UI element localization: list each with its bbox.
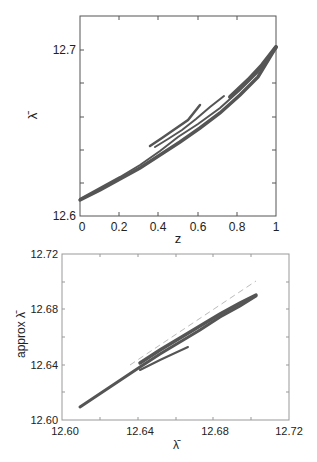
bottom-chart: 12.72 12.68 12.64 12.60 12.60 12.64 12.6… [14, 248, 303, 452]
bottom-x-tick-label: 12.60 [51, 425, 79, 437]
bottom-x-axis-label: λ̄ [173, 438, 181, 452]
bottom-data-curves [80, 295, 256, 407]
bottom-x-tick-label: 12.72 [275, 425, 303, 437]
identity-reference-line [130, 281, 256, 365]
top-x-tick-label: 1 [273, 220, 280, 234]
top-x-ticks [119, 16, 237, 216]
top-x-tick-label: 0.2 [111, 220, 128, 234]
top-x-tick-label: 0.8 [229, 220, 246, 234]
bottom-y-tick-label: 12.72 [30, 248, 58, 260]
top-x-tick-label: 0.4 [150, 220, 167, 234]
top-x-axis-label: z [175, 231, 182, 246]
bottom-y-axis-label: approx λ̄ [14, 310, 28, 358]
bottom-y-ticks [62, 282, 289, 392]
top-chart: 12.7 12.6 0 0.2 0.4 0.6 0.8 1 z λ̄ [25, 16, 280, 246]
bottom-x-tick-label: 12.64 [126, 425, 154, 437]
bottom-x-tick-label: 12.68 [201, 425, 229, 437]
top-y-tick-label: 12.7 [53, 43, 77, 57]
top-y-axis-label: λ̄ [25, 111, 40, 120]
top-y-tick-label: 12.6 [53, 209, 77, 223]
top-y-ticks [80, 50, 276, 183]
top-x-tick-label: 0 [79, 220, 86, 234]
bottom-y-tick-label: 12.68 [30, 303, 58, 315]
top-data-curves [80, 46, 276, 200]
top-x-tick-label: 0.6 [190, 220, 207, 234]
bottom-x-ticks [100, 254, 251, 420]
figure: 12.7 12.6 0 0.2 0.4 0.6 0.8 1 z λ̄ [0, 0, 317, 462]
bottom-y-tick-label: 12.64 [30, 359, 58, 371]
